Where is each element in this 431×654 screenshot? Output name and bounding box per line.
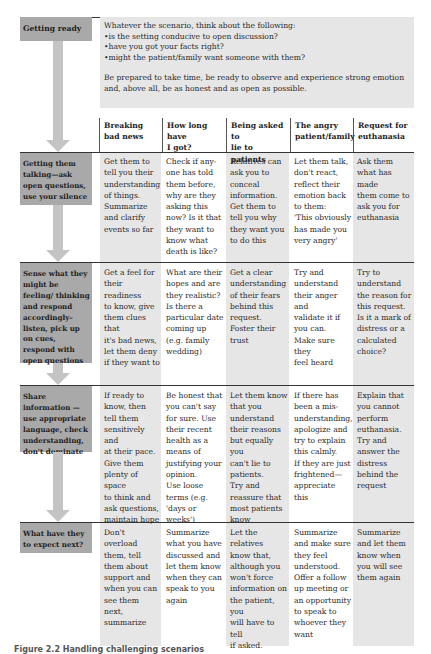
intro-bullet: have you got your facts right? [104, 42, 410, 53]
table-cell: Explain that you cannot perform euthanas… [353, 390, 415, 492]
table-cell: Ask them what has made them come to ask … [353, 156, 415, 224]
down-arrow-icon [46, 510, 70, 522]
table-cell: Get a feel for their readiness to know, … [100, 267, 162, 369]
intro-bullet: is the setting conducive to open discuss… [104, 32, 410, 43]
flow-arrow-shaft [53, 452, 63, 510]
flow-arrow-shaft [53, 205, 63, 250]
column-header-euthanasia: Request for euthanasia [353, 118, 414, 152]
step-label-what-next: What have they to expect next? [20, 523, 92, 553]
table-cell: Summarize and let them know when you wil… [353, 527, 415, 583]
table-cell: Don't overload them, tell them about sup… [100, 527, 162, 629]
column-header-angry-patient: The angry patient/family [290, 118, 353, 152]
down-arrow-icon [46, 250, 70, 262]
intro-closing: Be prepared to take time, be ready to ob… [104, 73, 410, 94]
table-cell: Check if any- one has told them before, … [162, 156, 226, 258]
flow-arrow-shaft [53, 363, 63, 373]
down-arrow-icon [46, 140, 70, 152]
table-cell: Try to understand the reason for this re… [353, 267, 415, 357]
intro-bullet: might the patient/family want someone wi… [104, 53, 410, 64]
table-cell: Let them know that you understand their … [226, 390, 290, 526]
table-cell: Let the relatives know that, although yo… [226, 527, 290, 651]
intro-bullets: is the setting conducive to open discuss… [104, 32, 410, 64]
table-cell: What are their hopes and are they realis… [162, 267, 226, 357]
figure-caption: Figure 2.2 Handling challenging scenario… [14, 645, 204, 654]
table-cell: Get a clear understanding of their fears… [226, 267, 290, 346]
table-cell: If ready to know, then tell them sensiti… [100, 390, 162, 526]
step-label-getting-ready: Getting ready [20, 17, 92, 41]
table-cell: Summarize what you have discussed and le… [162, 527, 226, 606]
column-header-breaking-bad-news: Breaking bad news [99, 118, 162, 152]
intro-line: Whatever the scenario, think about the f… [104, 21, 410, 32]
table-cell: Get them to tell you their understanding… [100, 156, 162, 235]
getting-ready-intro: Whatever the scenario, think about the f… [100, 17, 414, 108]
table-cell: Be honest that you can't say for sure. U… [162, 390, 226, 526]
step-label-getting-them-talking: Getting them talking—ask open questions,… [20, 153, 92, 205]
down-arrow-icon [46, 373, 70, 385]
step-label-sense-feelings: Sense what they might be feeling/ thinki… [20, 263, 92, 363]
table-cell: Relatives can ask you to conceal informa… [226, 156, 290, 246]
flow-arrow-shaft [53, 41, 63, 140]
column-header-asked-to-lie: Being asked to lie to patients [226, 118, 290, 152]
table-cell: Try and understand their anger and valid… [290, 267, 353, 369]
table-cell: Let them talk, don't react, reflect thei… [290, 156, 353, 246]
table-cell: Summarize and make sure they feel unders… [290, 527, 353, 640]
column-header-how-long: How long have I got? [162, 118, 226, 152]
step-label-share-information: Share information —use appropriate langu… [20, 386, 92, 452]
table-cell: If there has been a mis- understanding, … [290, 390, 353, 503]
